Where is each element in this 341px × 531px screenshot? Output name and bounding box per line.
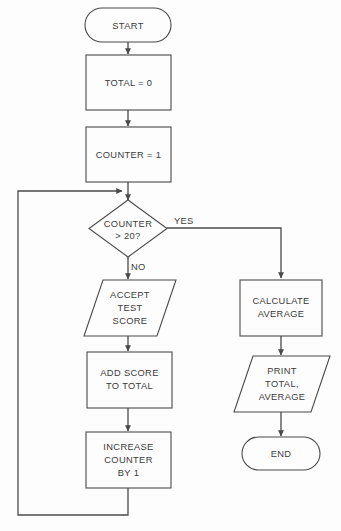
- edge-label-no: NO: [131, 262, 146, 272]
- accept-score-line2: TEST: [117, 303, 142, 313]
- calculate-average-line2: AVERAGE: [258, 309, 305, 319]
- increase-counter-line1: INCREASE: [103, 442, 153, 452]
- add-score-line2: TO TOTAL: [106, 381, 153, 391]
- node-counter-init[interactable]: COUNTER = 1: [86, 127, 171, 182]
- node-total-init[interactable]: TOTAL = 0: [86, 55, 171, 110]
- node-decision-counter[interactable]: COUNTER > 20?: [89, 200, 167, 257]
- print-results-line1: PRINT: [267, 366, 297, 376]
- total-init-label: TOTAL = 0: [105, 78, 153, 88]
- node-increase-counter[interactable]: INCREASE COUNTER BY 1: [86, 432, 171, 488]
- print-results-line3: AVERAGE: [259, 392, 306, 402]
- increase-counter-line3: BY 1: [118, 468, 139, 478]
- calculate-average-line1: CALCULATE: [252, 296, 309, 306]
- edge-label-yes: YES: [174, 216, 194, 226]
- counter-init-label: COUNTER = 1: [96, 150, 162, 160]
- increase-counter-line2: COUNTER: [104, 455, 152, 465]
- node-end[interactable]: END: [242, 437, 320, 470]
- node-calculate-average[interactable]: CALCULATE AVERAGE: [240, 280, 322, 336]
- print-results-line2: TOTAL,: [265, 379, 299, 389]
- add-score-shape: [87, 352, 172, 408]
- accept-score-line3: SCORE: [113, 316, 148, 326]
- add-score-line1: ADD SCORE: [100, 368, 158, 378]
- calculate-average-shape: [240, 280, 322, 336]
- end-label: END: [271, 449, 292, 459]
- accept-score-line1: ACCEPT: [110, 290, 150, 300]
- flowchart-svg: START TOTAL = 0 COUNTER = 1 COUNTER > 20…: [0, 0, 341, 531]
- node-add-score[interactable]: ADD SCORE TO TOTAL: [87, 352, 172, 408]
- node-start[interactable]: START: [85, 8, 171, 42]
- flowchart-canvas: START TOTAL = 0 COUNTER = 1 COUNTER > 20…: [0, 0, 341, 531]
- node-print-results[interactable]: PRINT TOTAL, AVERAGE: [234, 356, 330, 412]
- decision-label-line2: > 20?: [115, 231, 140, 241]
- node-accept-score[interactable]: ACCEPT TEST SCORE: [84, 280, 176, 336]
- start-label: START: [112, 21, 143, 31]
- decision-label-line1: COUNTER: [104, 219, 152, 229]
- connector-yes-branch: [167, 228, 281, 278]
